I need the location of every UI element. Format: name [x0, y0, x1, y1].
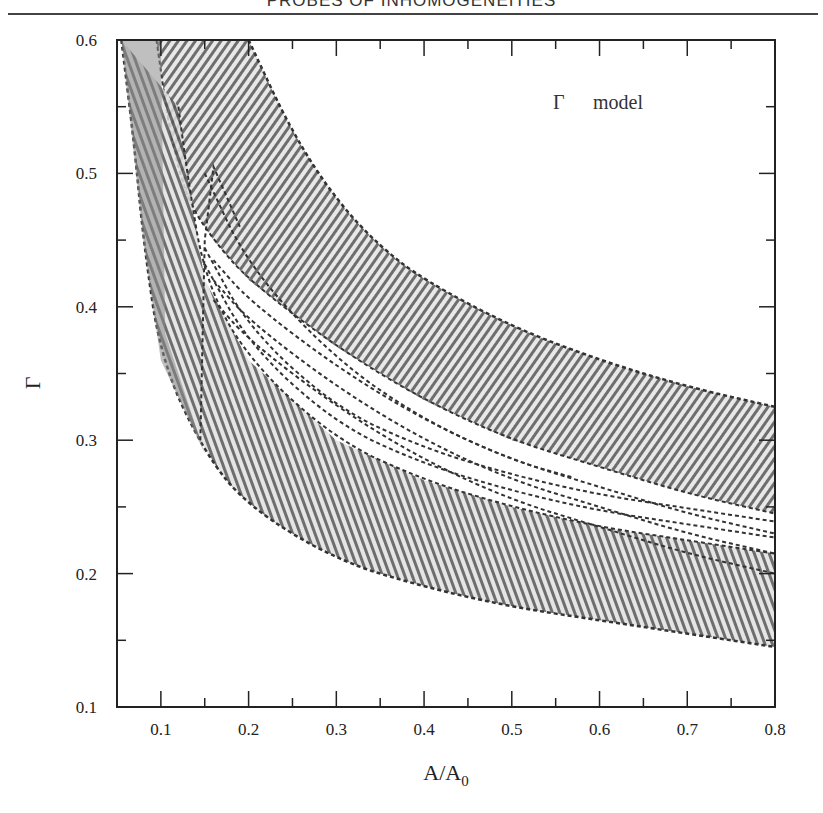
x-tick-label: 0.1	[150, 720, 171, 739]
x-tick-label: 0.3	[326, 720, 347, 739]
x-axis-label-main: A/A	[423, 760, 461, 785]
y-axis-label: Γ	[20, 376, 45, 389]
y-tick-label: 0.2	[76, 565, 97, 584]
x-axis-label-subscript: 0	[461, 773, 469, 789]
x-tick-label: 0.8	[764, 720, 785, 739]
y-tick-label: 0.6	[76, 31, 97, 50]
x-tick-label: 0.5	[501, 720, 522, 739]
plot-area	[121, 40, 775, 647]
x-tick-label: 0.6	[589, 720, 610, 739]
x-axis-label: A/A0	[423, 760, 468, 789]
y-tick-labels: 0.10.20.30.40.50.6	[76, 31, 98, 717]
annotation-model: model	[593, 91, 643, 113]
y-tick-label: 0.4	[76, 298, 98, 317]
chart: 0.10.20.30.40.50.60.70.8 0.10.20.30.40.5…	[0, 0, 823, 813]
y-tick-label: 0.1	[76, 698, 97, 717]
x-tick-label: 0.4	[413, 720, 435, 739]
x-tick-label: 0.2	[238, 720, 259, 739]
annotation-symbol: Γ	[553, 91, 565, 113]
x-tick-labels: 0.10.20.30.40.50.60.70.8	[150, 720, 785, 739]
y-tick-label: 0.3	[76, 431, 97, 450]
y-tick-label: 0.5	[76, 164, 97, 183]
x-tick-label: 0.7	[677, 720, 699, 739]
